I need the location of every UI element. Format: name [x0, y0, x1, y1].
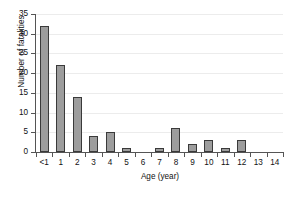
- bar: [221, 148, 230, 152]
- x-axis-tick: [184, 153, 185, 157]
- gridline: [36, 93, 283, 94]
- y-axis-tick-label: 35: [6, 10, 28, 18]
- y-axis-tick-label: 5: [6, 128, 28, 136]
- bar: [155, 148, 164, 152]
- y-axis-tick: [31, 152, 35, 153]
- y-axis-tick: [31, 113, 35, 114]
- x-axis-tick: [102, 153, 103, 157]
- y-axis-tick: [31, 132, 35, 133]
- bar: [204, 140, 213, 152]
- y-axis-tick: [31, 34, 35, 35]
- gridline: [36, 53, 283, 54]
- y-axis-tick-label: 15: [6, 89, 28, 97]
- bar: [56, 65, 65, 152]
- bar: [106, 132, 115, 152]
- x-axis-tick: [201, 153, 202, 157]
- x-axis-tick: [234, 153, 235, 157]
- x-axis-tick: [168, 153, 169, 157]
- x-axis-tick: [85, 153, 86, 157]
- x-axis-tick: [217, 153, 218, 157]
- bar: [40, 26, 49, 152]
- y-axis-tick-label: 0: [6, 148, 28, 156]
- y-axis-tick: [31, 53, 35, 54]
- bar: [122, 148, 131, 152]
- y-axis-tick-label: 25: [6, 49, 28, 57]
- x-axis-tick: [36, 153, 37, 157]
- x-axis-tick: [52, 153, 53, 157]
- x-axis-title: Age (year): [36, 172, 284, 181]
- x-axis-tick: [135, 153, 136, 157]
- y-axis-tick: [31, 93, 35, 94]
- y-axis-tick-label: 20: [6, 69, 28, 77]
- x-axis-tick: [267, 153, 268, 157]
- y-axis-tick: [31, 73, 35, 74]
- bar: [73, 97, 82, 152]
- y-axis-tick: [31, 14, 35, 15]
- bar: [188, 144, 197, 152]
- x-axis-line: [36, 152, 284, 153]
- y-axis-tick-label: 10: [6, 109, 28, 117]
- gridline: [36, 14, 283, 15]
- x-axis-tick: [250, 153, 251, 157]
- y-axis-tick-label: 30: [6, 30, 28, 38]
- x-axis-tick: [151, 153, 152, 157]
- x-axis-tick: [283, 153, 284, 157]
- x-axis-tick: [118, 153, 119, 157]
- plot-area: [36, 14, 283, 152]
- bar: [171, 128, 180, 152]
- gridline: [36, 73, 283, 74]
- bar-chart-figure: Number of fatalities 05101520253035 <112…: [0, 0, 289, 198]
- gridline: [36, 34, 283, 35]
- bar: [89, 136, 98, 152]
- bar: [237, 140, 246, 152]
- x-axis-tick: [69, 153, 70, 157]
- x-axis-tick-label: 14: [263, 158, 287, 168]
